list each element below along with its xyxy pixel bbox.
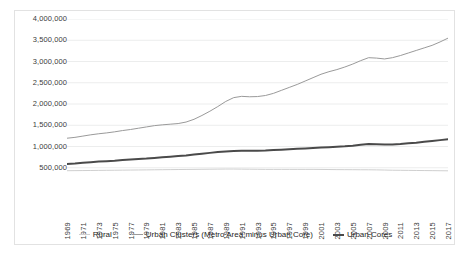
chart-container: 4,000,0003,500,0003,000,0002,500,0002,00… xyxy=(14,10,455,245)
y-axis: 4,000,0003,500,0003,000,0002,500,0002,00… xyxy=(15,11,67,246)
legend-line-swatch-icon xyxy=(79,234,90,235)
legend-item[interactable]: Rural xyxy=(79,230,112,239)
legend-line-swatch-icon xyxy=(132,234,143,235)
y-axis-tick-label: 1,000,000 xyxy=(11,143,67,151)
y-axis-tick-label: 500,000 xyxy=(11,164,67,172)
legend-item[interactable]: Urban Cores xyxy=(333,230,392,239)
y-axis-tick-label: 4,000,000 xyxy=(11,15,67,23)
y-axis-tick-label: 2,000,000 xyxy=(11,100,67,108)
y-axis-tick-label: 1,500,000 xyxy=(11,121,67,129)
legend-item[interactable]: Urban Clusters (Metro Area minus Urban C… xyxy=(132,230,313,239)
y-axis-tick-label: 2,500,000 xyxy=(11,79,67,87)
y-axis-tick-label: 3,000,000 xyxy=(11,58,67,66)
legend-label: Urban Clusters (Metro Area minus Urban C… xyxy=(146,230,313,239)
chart-legend: RuralUrban Clusters (Metro Area minus Ur… xyxy=(15,230,456,239)
legend-label: Rural xyxy=(93,230,112,239)
y-axis-tick-label: 3,500,000 xyxy=(11,36,67,44)
legend-label: Urban Cores xyxy=(347,230,392,239)
plot-area xyxy=(67,19,448,189)
chart-plot-wrapper: 4,000,0003,500,0003,000,0002,500,0002,00… xyxy=(15,11,456,246)
legend-line-swatch-icon xyxy=(333,234,344,236)
line-chart-svg xyxy=(67,19,448,189)
series-line-2 xyxy=(67,139,448,164)
series-line-0 xyxy=(67,169,448,171)
series-line-1 xyxy=(67,38,448,138)
